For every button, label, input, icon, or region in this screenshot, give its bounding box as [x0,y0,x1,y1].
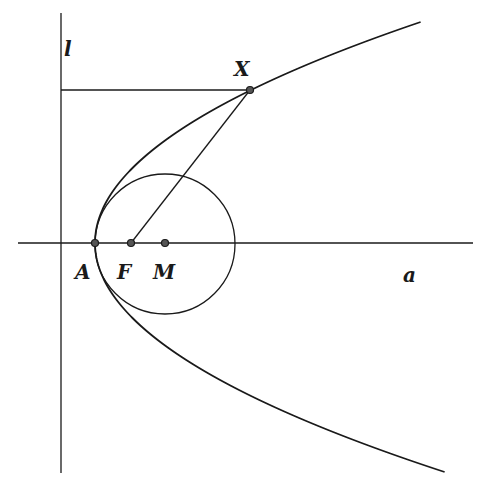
point-x [247,87,254,94]
label-l: l [64,37,72,61]
label-center-m: M [152,260,176,284]
label-a: a [403,263,416,287]
segment-fx [131,90,250,243]
label-vertex-a: A [73,260,91,284]
label-focus-f: F [116,260,133,284]
parabola-diagram: l a X A F M [0,0,488,493]
point-f [128,240,135,247]
label-x: X [232,57,251,81]
point-a [92,240,99,247]
point-m [162,240,169,247]
